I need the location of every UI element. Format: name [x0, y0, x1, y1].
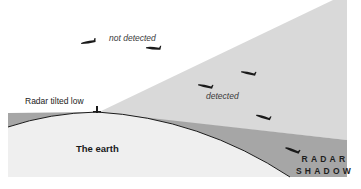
aircraft-icon	[81, 38, 96, 45]
earth-label: The earth	[76, 143, 119, 154]
radar-shadow-label: RADAR SHADOW	[296, 153, 354, 177]
radar-label: Radar tilted low	[25, 96, 84, 106]
detected-label: detected	[206, 91, 239, 101]
radar-shadow-label-line2: SHADOW	[296, 165, 354, 177]
radar-shadow-label-line1: RADAR	[296, 153, 354, 165]
not-detected-label: not detected	[109, 33, 156, 43]
radar-icon	[93, 106, 101, 113]
aircraft-icon	[146, 44, 161, 50]
